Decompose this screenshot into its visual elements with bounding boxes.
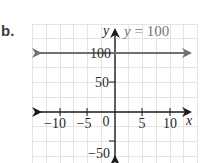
x-tick-label-10: 10 xyxy=(163,116,177,131)
y-tick-label-neg50: −50 xyxy=(88,146,110,161)
y-tick-label-50: 50 xyxy=(95,75,109,90)
x-axis-label: x xyxy=(185,113,193,128)
equation-rest: = 100 xyxy=(131,23,169,39)
y-tick-label-100: 100 xyxy=(90,46,111,61)
x-tick-label-neg5: −5 xyxy=(77,116,92,131)
equation-label: y = 100 xyxy=(122,23,169,39)
equation-variable: y xyxy=(122,23,131,39)
x-tick-label-neg10: −10 xyxy=(44,116,66,131)
origin-label: 0 xyxy=(103,114,110,129)
y-axis-label: y xyxy=(101,23,110,38)
x-tick-label-5: 5 xyxy=(139,116,146,131)
coordinate-plane: 100 50 −50 −10 −5 5 10 0 x y y = 100 xyxy=(0,0,203,163)
